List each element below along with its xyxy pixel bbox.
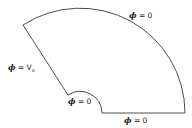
diagram-canvas: ϕ = 0 ϕ = Vo ϕ = 0 ϕ = 0 [0,0,192,128]
inner-arc-label: ϕ = 0 [68,96,92,106]
left-edge-boundary [23,25,68,95]
outer-arc-boundary [23,8,185,113]
annular-sector-figure: ϕ = 0 ϕ = Vo ϕ = 0 ϕ = 0 [0,0,192,128]
bottom-edge-label: ϕ = 0 [124,115,148,125]
outer-arc-label: ϕ = 0 [129,10,153,20]
left-edge-label: ϕ = Vo [8,62,35,73]
